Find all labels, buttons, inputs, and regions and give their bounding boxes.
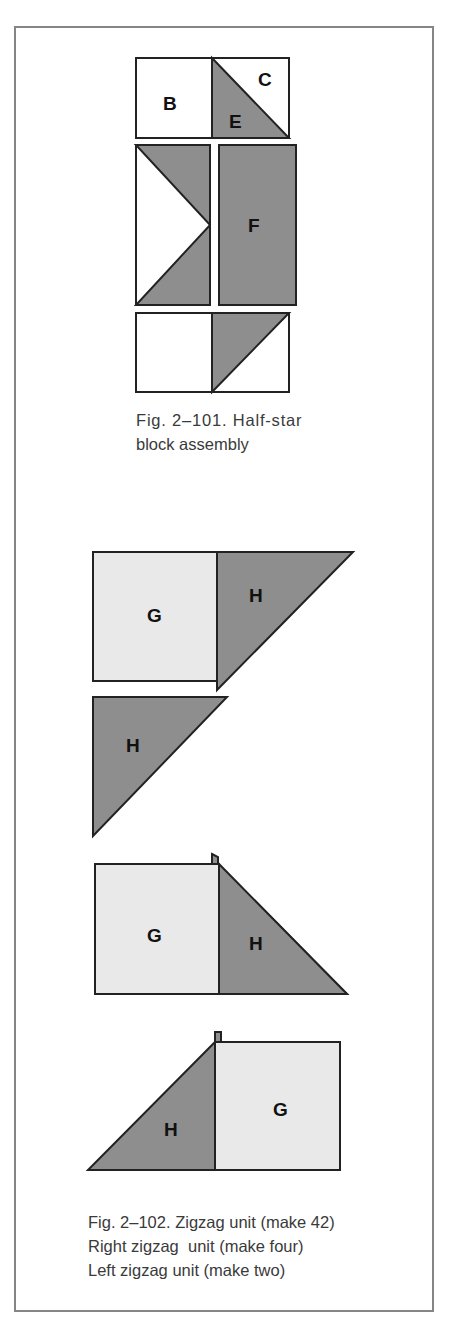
- left-zigzag-unit-diagram: [88, 1032, 340, 1170]
- quilt-diagrams: B C E F G H H G H H G: [0, 0, 467, 1342]
- figure-101-caption: Fig. 2–101. Half-star block assembly: [136, 408, 302, 456]
- label-h-1: H: [249, 585, 263, 606]
- caption-line: block assembly: [136, 432, 302, 456]
- label-h-3: H: [249, 933, 263, 954]
- figure-102-caption: Fig. 2–102. Zigzag unit (make 42) Right …: [88, 1210, 335, 1282]
- label-c: C: [258, 69, 272, 90]
- caption-line: Fig. 2–102. Zigzag unit (make 42): [88, 1210, 335, 1234]
- label-e: E: [229, 111, 242, 132]
- half-star-block-diagram: [136, 58, 296, 392]
- label-f: F: [248, 215, 260, 236]
- label-h-2: H: [126, 735, 140, 756]
- label-g-2: G: [147, 925, 162, 946]
- caption-line: Left zigzag unit (make two): [88, 1258, 335, 1282]
- right-zigzag-unit-diagram: [95, 854, 347, 994]
- caption-line: Fig. 2–101. Half-star: [136, 408, 302, 432]
- label-g-3: G: [273, 1099, 288, 1120]
- label-b: B: [163, 93, 177, 114]
- zigzag-unit-diagram: [93, 552, 353, 836]
- label-g-1: G: [147, 605, 162, 626]
- caption-line: Right zigzag unit (make four): [88, 1234, 335, 1258]
- label-h-4: H: [164, 1119, 178, 1140]
